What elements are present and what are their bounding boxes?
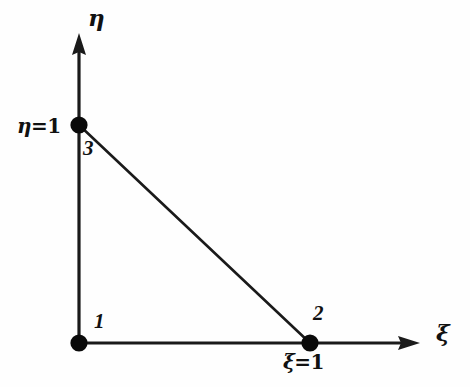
node-3-label: 3 [83,138,94,159]
node-1-dot [70,334,87,351]
xi-axis-label: ξ [436,321,450,344]
figure-canvas [0,0,470,387]
arrow-up-icon [72,33,86,55]
triangular-element-figure: η ξ η=1 ξ=1 1 2 3 [0,0,470,387]
xi-equals-one-annotation: ξ=1 [283,352,324,372]
xi-symbol: ξ [283,350,294,374]
node-3-dot [70,116,87,133]
node-1-label: 1 [94,311,105,332]
xi-equals-one-value: =1 [294,350,324,374]
hypotenuse-edge [79,125,310,343]
eta-symbol: η [17,114,31,138]
node-2-label: 2 [313,303,324,324]
arrow-right-icon [398,336,420,350]
eta-equals-one-value: =1 [31,114,61,138]
eta-equals-one-annotation: η=1 [17,116,61,136]
eta-axis-label: η [88,6,105,29]
